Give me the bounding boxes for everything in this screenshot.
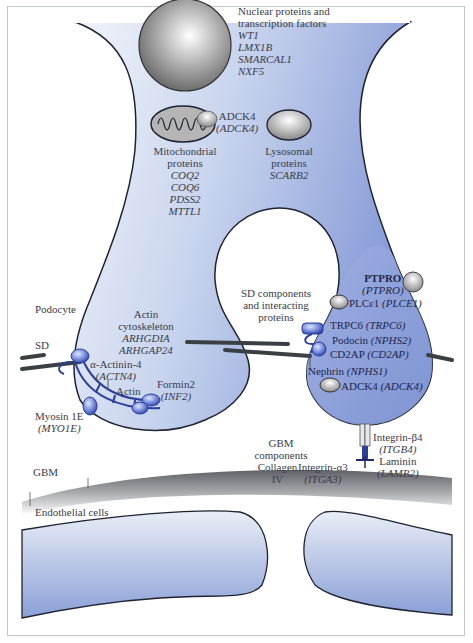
integrin-a3-gene: (ITGA3) (298, 473, 348, 485)
podocyte-label: Podocyte (35, 303, 76, 315)
mito-adck4-protein: ADCK4 (216, 110, 258, 122)
integrin-b4-protein: Integrin-β4 (373, 431, 423, 443)
gbm-components-label: GBM components (250, 437, 312, 461)
nucleus (139, 0, 231, 91)
gene-smarcal1: SMARCAL1 (238, 53, 330, 65)
lysosomal-proteins-label: Lysosomal proteins SCARB2 (256, 145, 322, 181)
integrin-a3-protein: Integrin-α3 (298, 461, 348, 473)
gene-lmx1b: LMX1B (238, 41, 330, 53)
gene-scarb2: SCARB2 (256, 169, 322, 181)
endothelial-label: Endothelial cells (35, 506, 109, 518)
actinin4-protein: α-Actinin-4 (90, 358, 142, 370)
collagen-label: Collagen IV (250, 461, 305, 485)
nucleus-label: Nuclear proteins and transcription facto… (238, 5, 330, 77)
gene-wt1: WT1 (238, 29, 330, 41)
actin-ball (132, 402, 148, 414)
myosin1e-gene: (MYO1E) (35, 422, 84, 434)
plce1-ball (330, 295, 348, 309)
cd2ap-gene: (CD2AP) (367, 348, 409, 360)
actin-title-2: cytoskeleton (108, 320, 184, 332)
adck4-mito-protein (197, 111, 217, 127)
plce1-protein: PLCε1 (349, 297, 379, 309)
mito-title-2: proteins (150, 157, 220, 169)
podocin-gene: (NPHS2) (371, 334, 411, 346)
sd-components-label: SD components and interacting proteins (236, 287, 316, 323)
gene-coq6: COQ6 (150, 181, 220, 193)
podocin-protein: Podocin (332, 334, 368, 346)
sd-title-3: proteins (236, 311, 316, 323)
formin2-protein: Formin2 (157, 378, 195, 390)
collagen-line-1: Collagen (250, 461, 305, 473)
mito-adck4-label: ADCK4 (ADCK4) (216, 110, 258, 134)
ptpro-ball (403, 272, 423, 292)
formin2-gene: (INF2) (157, 390, 195, 402)
actin-title-1: Actin (108, 308, 184, 320)
ptpro-label: PTPRO (PTPRO) (362, 272, 404, 296)
lyso-title-2: proteins (256, 157, 322, 169)
myosin1e-protein: Myosin 1E (35, 410, 84, 422)
podocin-label: Podocin (NPHS2) (332, 334, 411, 346)
gene-nxf5: NXF5 (238, 65, 330, 77)
integrin-pair (356, 424, 374, 468)
actin-cytoskeleton-label: Actin cytoskeleton ARHGDIA ARHGAP24 (108, 308, 184, 356)
trpc6-gene: (TRPC6) (366, 319, 406, 331)
trpc6-protein: TRPC6 (330, 319, 363, 331)
sd-label: SD (35, 339, 49, 351)
gene-mttl1: MTTL1 (150, 205, 220, 217)
trpc6-label: TRPC6 (TRPC6) (330, 319, 406, 331)
cd2ap-label: CD2AP (CD2AP) (330, 348, 409, 360)
actinin4-gene: (ACTN4) (90, 370, 142, 382)
endothelial-cell-left (22, 511, 267, 618)
plce1-gene: (PLCE1) (382, 297, 422, 309)
cd2ap-protein: CD2AP (330, 348, 364, 360)
mito-adck4-gene: (ADCK4) (216, 122, 258, 134)
adck4-label: ADCK4 (ADCK4) (341, 380, 423, 392)
mito-title-1: Mitochondrial (150, 145, 220, 157)
nephrin-label: Nephrin (NPHS1) (308, 365, 387, 377)
plce1-label: PLCε1 (PLCE1) (349, 297, 422, 309)
collagen-line-2: IV (250, 473, 305, 485)
adck4-ball (320, 378, 340, 392)
gbm-comp-title-2: components (250, 449, 312, 461)
mitochondrial-proteins-label: Mitochondrial proteins COQ2 COQ6 PDSS2 M… (150, 145, 220, 217)
actinin4-ball (71, 349, 89, 363)
ptpro-protein: PTPRO (362, 272, 404, 284)
adck4-protein: ADCK4 (341, 380, 378, 392)
lyso-title-1: Lysosomal (256, 145, 322, 157)
sd-title-2: and interacting (236, 299, 316, 311)
gbm-label: GBM (33, 466, 58, 478)
actin-label: Actin (116, 385, 140, 397)
endothelial-cell-right (304, 511, 452, 615)
ptpro-gene: (PTPRO) (362, 284, 404, 296)
nucleus-title-1: Nuclear proteins and (238, 5, 330, 17)
formin2-label: Formin2 (INF2) (157, 378, 195, 402)
sd-title-1: SD components (236, 287, 316, 299)
mitochondrion (151, 106, 217, 142)
gbm-comp-title-1: GBM (250, 437, 312, 449)
nephrin-protein: Nephrin (308, 365, 344, 377)
actinin4-label: α-Actinin-4 (ACTN4) (90, 358, 142, 382)
integrin-b4-label: Integrin-β4 (ITGB4) Laminin (LAMB2) (373, 431, 423, 479)
laminin-gene: (LAMB2) (373, 467, 423, 479)
lysosome (267, 110, 311, 140)
adck4-gene: (ADCK4) (380, 380, 422, 392)
nephrin-gene: (NPHS1) (347, 365, 387, 377)
integrin-a3-label: Integrin-α3 (ITGA3) (298, 461, 348, 485)
nucleus-title-2: transcription factors (238, 17, 330, 29)
gene-coq2: COQ2 (150, 169, 220, 181)
gene-pdss2: PDSS2 (150, 193, 220, 205)
integrin-b4-gene: (ITGB4) (373, 443, 423, 455)
myosin1e-label: Myosin 1E (MYO1E) (35, 410, 84, 434)
gene-arhgdia: ARHGDIA (108, 332, 184, 344)
laminin-protein: Laminin (373, 455, 423, 467)
myosin-ball (83, 397, 97, 415)
gene-arhgap24: ARHGAP24 (108, 344, 184, 356)
